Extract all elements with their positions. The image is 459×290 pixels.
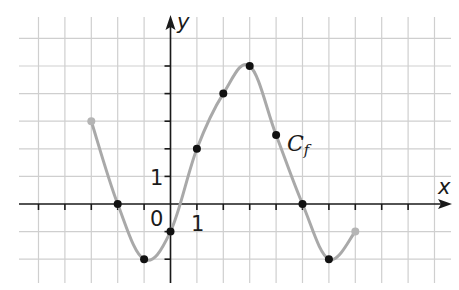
curve-label-main: C <box>287 131 304 156</box>
point-marker <box>246 62 254 70</box>
x-unit-label: 1 <box>191 214 204 235</box>
point-marker <box>140 255 148 263</box>
point-marker <box>219 90 227 98</box>
origin-label: 0 <box>150 209 163 230</box>
point-marker <box>299 200 307 208</box>
grid-lines <box>19 17 451 283</box>
point-marker <box>114 200 122 208</box>
endpoint-marker <box>87 117 95 125</box>
x-axis-label: x <box>438 177 450 198</box>
function-graph: y x 0 1 1 Cf <box>0 0 459 290</box>
endpoint-marker <box>351 228 359 236</box>
curve-label: Cf <box>287 133 309 158</box>
plot-area <box>0 0 459 290</box>
curve-label-sub: f <box>304 141 310 159</box>
y-axis-label: y <box>177 12 189 33</box>
point-marker <box>272 131 280 139</box>
point-marker <box>167 228 175 236</box>
y-unit-label: 1 <box>150 168 163 189</box>
point-marker <box>193 145 201 153</box>
point-marker <box>325 255 333 263</box>
